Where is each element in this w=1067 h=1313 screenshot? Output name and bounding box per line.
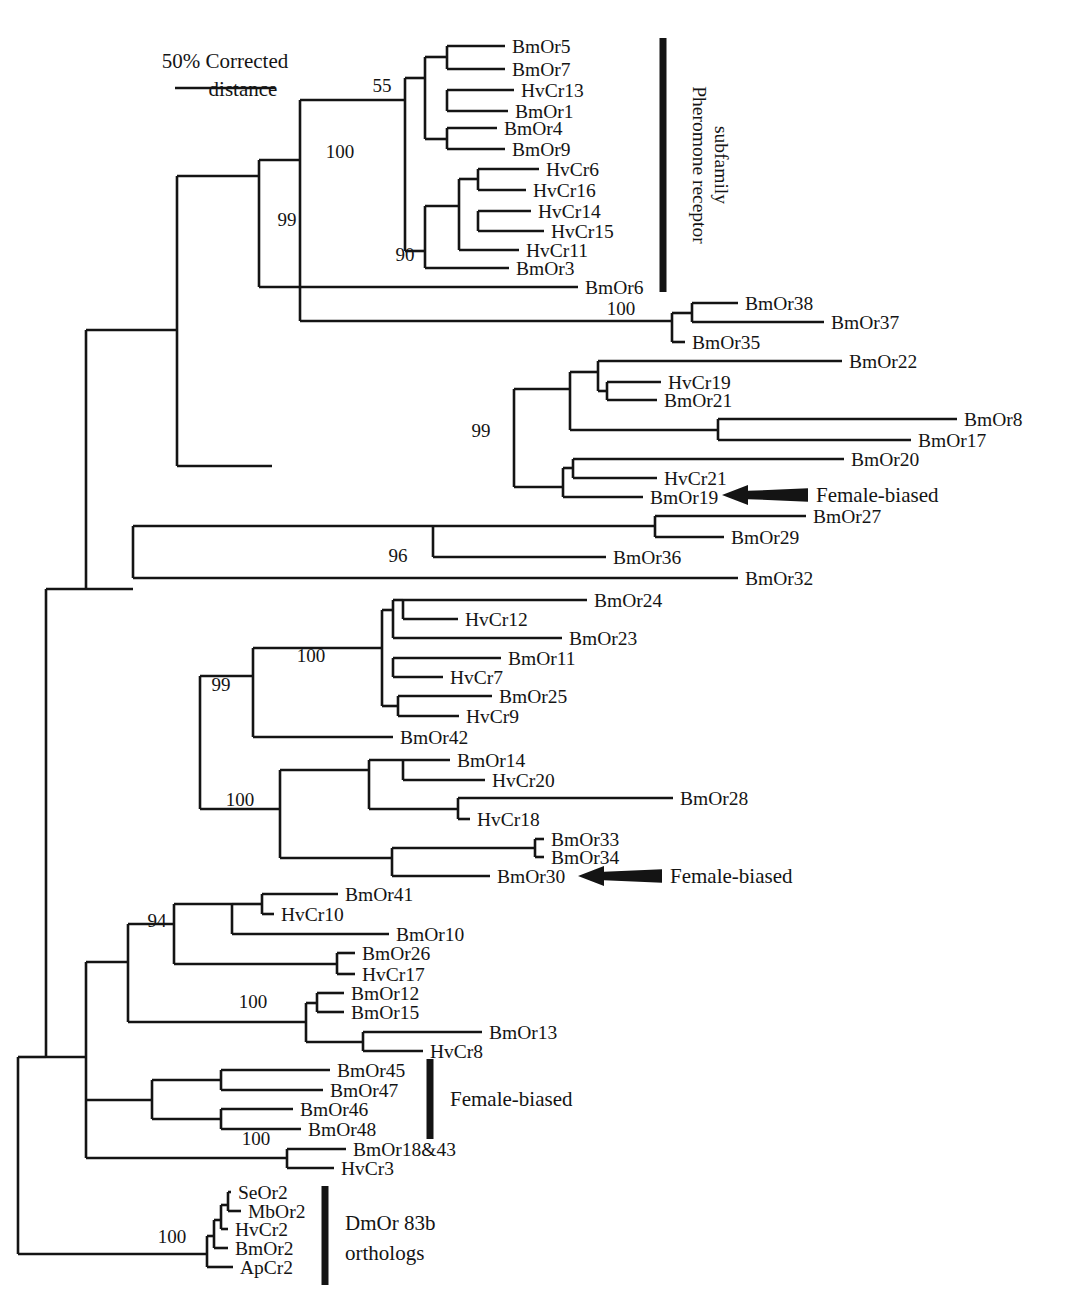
bootstrap-value: 90 [396, 244, 415, 265]
tip-label: BmOr23 [569, 628, 637, 649]
tip-label: BmOr12 [351, 983, 419, 1004]
tip-label: BmOr8 [964, 409, 1023, 430]
tip-label: HvCr3 [341, 1158, 394, 1179]
tip-label: BmOr36 [613, 547, 682, 568]
tip-label: BmOr41 [345, 884, 413, 905]
group-label-line1: Female-biased [450, 1087, 573, 1111]
annotation-label-female-biased-bmor30: Female-biased [670, 864, 793, 888]
bootstrap-value: 100 [239, 991, 268, 1012]
scale-label-line1: 50% Corrected [162, 49, 289, 73]
tip-label: SeOr2 [238, 1182, 288, 1203]
tip-label: HvCr6 [546, 159, 599, 180]
tip-label: BmOr29 [731, 527, 799, 548]
tree-canvas: Pheromone receptorsubfamilyFemale-biased… [0, 0, 1067, 1313]
tip-label: BmOr11 [508, 648, 576, 669]
bootstrap-value: 94 [148, 910, 168, 931]
tip-label: HvCr16 [533, 180, 596, 201]
tip-label: BmOr18&43 [353, 1139, 456, 1160]
tip-label: BmOr4 [504, 118, 563, 139]
tip-label: BmOr46 [300, 1099, 369, 1120]
tip-label: BmOr7 [512, 59, 571, 80]
bootstrap-value: 100 [297, 645, 326, 666]
tip-label: HvCr10 [281, 904, 344, 925]
tip-label: BmOr32 [745, 568, 813, 589]
tip-label: BmOr10 [396, 924, 464, 945]
tip-label: BmOr25 [499, 686, 567, 707]
bootstrap-value: 100 [607, 298, 636, 319]
bootstrap-value: 100 [158, 1226, 187, 1247]
tip-label: BmOr22 [849, 351, 917, 372]
tip-label: BmOr48 [308, 1119, 376, 1140]
tip-label: HvCr2 [235, 1219, 288, 1240]
tip-label: BmOr42 [400, 727, 468, 748]
group-label-line2: subfamily [711, 126, 732, 204]
annotation-label-female-biased-bmor19: Female-biased [816, 483, 939, 507]
tip-label: BmOr5 [512, 36, 571, 57]
tip-label: BmOr15 [351, 1002, 419, 1023]
tip-label: HvCr17 [362, 964, 425, 985]
tip-label: HvCr20 [492, 770, 555, 791]
tip-label: BmOr21 [664, 390, 732, 411]
tip-label: BmOr34 [551, 847, 620, 868]
bootstrap-value: 100 [242, 1128, 271, 1149]
tip-label: BmOr9 [512, 139, 571, 160]
tip-label: BmOr47 [330, 1080, 399, 1101]
tip-label: BmOr17 [918, 430, 987, 451]
tip-label: HvCr7 [450, 667, 503, 688]
bootstrap-value: 100 [226, 789, 255, 810]
tip-label: HvCr12 [465, 609, 528, 630]
tip-label: HvCr21 [664, 468, 727, 489]
tip-label: BmOr24 [594, 590, 663, 611]
bootstrap-value: 99 [212, 674, 231, 695]
tip-label: BmOr30 [497, 866, 565, 887]
bootstrap-value: 99 [472, 420, 491, 441]
tip-label: BmOr6 [585, 277, 644, 298]
tip-label: BmOr19 [650, 487, 718, 508]
scale-label-line2: distance [209, 77, 278, 101]
tip-label: HvCr8 [430, 1041, 483, 1062]
tip-label: BmOr28 [680, 788, 748, 809]
tip-label: BmOr3 [516, 258, 575, 279]
group-label-line2: orthologs [345, 1241, 424, 1265]
tip-label: BmOr35 [692, 332, 760, 353]
group-label-line1: DmOr 83b [345, 1211, 435, 1235]
tip-label: BmOr37 [831, 312, 900, 333]
bootstrap-value: 55 [373, 75, 392, 96]
tip-label: HvCr15 [551, 221, 614, 242]
tip-label: HvCr13 [521, 80, 584, 101]
tip-label: BmOr45 [337, 1060, 405, 1081]
tip-label: BmOr13 [489, 1022, 557, 1043]
bootstrap-value: 100 [326, 141, 355, 162]
tip-label: BmOr38 [745, 293, 813, 314]
tip-label: HvCr9 [466, 706, 519, 727]
tip-label: BmOr2 [235, 1238, 294, 1259]
tip-label: BmOr26 [362, 943, 431, 964]
tip-label: BmOr20 [851, 449, 919, 470]
tip-label: HvCr18 [477, 809, 540, 830]
tip-label: BmOr14 [457, 750, 526, 771]
group-label-line1: Pheromone receptor [689, 86, 710, 244]
bootstrap-value: 99 [278, 209, 297, 230]
tip-label: HvCr14 [538, 201, 601, 222]
phylogenetic-tree-figure: Pheromone receptorsubfamilyFemale-biased… [0, 0, 1067, 1313]
bootstrap-value: 96 [389, 545, 408, 566]
tip-label: ApCr2 [240, 1257, 293, 1278]
tip-label: BmOr27 [813, 506, 882, 527]
